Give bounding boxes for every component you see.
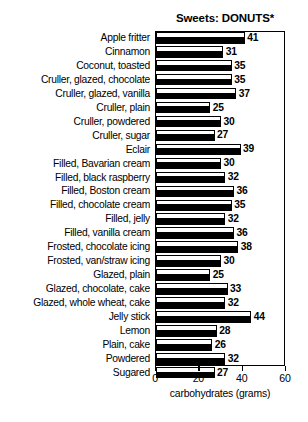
bar-value-label: 32 <box>228 212 239 225</box>
bar <box>156 255 221 267</box>
bar <box>156 200 232 212</box>
bar-segment-dark <box>156 345 212 351</box>
bar-value-label: 33 <box>230 282 241 295</box>
bar-value-label: 31 <box>226 45 237 58</box>
bar-row: Cruller, plain25 <box>0 101 308 115</box>
bar-value-label: 35 <box>234 73 245 86</box>
bar-value-label: 36 <box>237 226 248 239</box>
bar-value-label: 39 <box>243 142 254 155</box>
bar <box>156 158 221 170</box>
x-axis-tick-label: 0 <box>142 372 168 384</box>
bar-segment-dark <box>156 359 225 365</box>
bar-value-label: 27 <box>217 366 228 379</box>
bar-segment-dark <box>156 135 215 141</box>
bar-row: Cruller, sugar27 <box>0 129 308 143</box>
category-label: Apple fritter <box>101 31 153 45</box>
category-label: Jelly stick <box>109 310 153 324</box>
x-axis-title: carbohydrates (grams) <box>155 388 285 399</box>
bar-segment-dark <box>156 191 234 197</box>
bar-segment-dark <box>156 107 210 113</box>
x-axis-tick <box>285 366 286 371</box>
bar-segment-dark <box>156 289 228 295</box>
bar <box>156 46 223 58</box>
x-axis-tick-label: 40 <box>229 372 255 384</box>
bar-segment-dark <box>156 38 245 44</box>
bar <box>156 74 232 86</box>
bar <box>156 130 215 142</box>
bar-segment-dark <box>156 121 221 127</box>
category-label: Filled, black raspberry <box>55 171 153 185</box>
bar-value-label: 30 <box>224 156 235 169</box>
bar-row: Cruller, glazed, vanilla37 <box>0 87 308 101</box>
bar-row: Powdered32 <box>0 352 308 366</box>
bar-value-label: 36 <box>237 184 248 197</box>
bar <box>156 297 225 309</box>
category-label: Plain, cake <box>102 338 153 352</box>
bar-row: Eclair39 <box>0 143 308 157</box>
bar <box>156 116 221 128</box>
bar <box>156 269 210 281</box>
bar-row: Jelly stick44 <box>0 310 308 324</box>
bar <box>156 213 225 225</box>
bar-segment-dark <box>156 219 225 225</box>
bar-segment-dark <box>156 163 221 169</box>
bar-segment-dark <box>156 331 217 337</box>
bar-segment-dark <box>156 317 251 323</box>
bar <box>156 353 225 365</box>
bar-segment-dark <box>156 233 234 239</box>
category-label: Cruller, powdered <box>74 115 153 129</box>
bar-row: Filled, chocolate cream35 <box>0 198 308 212</box>
bar-value-label: 38 <box>241 240 252 253</box>
category-label: Glazed, whole wheat, cake <box>33 296 153 310</box>
bar <box>156 60 232 72</box>
bar-row: Cinnamon31 <box>0 45 308 59</box>
bar-segment-dark <box>156 177 225 183</box>
bar-row: Glazed, plain25 <box>0 268 308 282</box>
bar-value-label: 27 <box>217 128 228 141</box>
category-label: Cruller, sugar <box>92 129 153 143</box>
bar-row: Filled, vanilla cream36 <box>0 226 308 240</box>
bar-value-label: 30 <box>224 115 235 128</box>
bar-segment-dark <box>156 80 232 86</box>
bar-value-label: 35 <box>234 198 245 211</box>
category-label: Lemon <box>120 324 153 338</box>
x-axis: 0204060 <box>155 366 285 367</box>
bar-row: Frosted, chocolate icing38 <box>0 240 308 254</box>
category-label: Eclair <box>126 143 153 157</box>
bar-value-label: 35 <box>234 59 245 72</box>
bar-value-label: 28 <box>219 324 230 337</box>
bar <box>156 32 245 44</box>
bar-segment-dark <box>156 247 238 253</box>
bar <box>156 339 212 351</box>
bar-value-label: 26 <box>215 338 226 351</box>
bar-row: Filled, Boston cream36 <box>0 184 308 198</box>
bar-value-label: 32 <box>228 296 239 309</box>
bar-value-label: 32 <box>228 170 239 183</box>
bar-segment-dark <box>156 94 236 100</box>
bar-value-label: 41 <box>247 31 258 44</box>
bar-segment-dark <box>156 149 241 155</box>
category-label: Frosted, chocolate icing <box>47 240 153 254</box>
x-axis-tick-label: 20 <box>185 372 211 384</box>
category-label: Glazed, chocolate, cake <box>46 282 153 296</box>
category-label: Filled, Bavarian cream <box>53 157 153 171</box>
bar <box>156 283 228 295</box>
x-axis-tick-label: 60 <box>272 372 298 384</box>
bar-value-label: 32 <box>228 352 239 365</box>
category-label: Filled, jelly <box>105 212 153 226</box>
category-label: Glazed, plain <box>93 268 153 282</box>
bar-row: Glazed, chocolate, cake33 <box>0 282 308 296</box>
bar-segment-dark <box>156 303 225 309</box>
bar-segment-dark <box>156 275 210 281</box>
donuts-carbohydrates-bar-chart: Sweets: DONUTS* Apple fritter41Cinnamon3… <box>0 0 308 422</box>
category-label: Filled, Boston cream <box>61 184 153 198</box>
category-label: Cruller, glazed, vanilla <box>55 87 153 101</box>
bar-segment-dark <box>156 66 232 72</box>
bar-row: Frosted, van/straw icing30 <box>0 254 308 268</box>
bar <box>156 102 210 114</box>
bar-rows-container: Apple fritter41Cinnamon31Coconut, toaste… <box>0 31 308 366</box>
bar <box>156 172 225 184</box>
x-axis-tick <box>155 366 156 371</box>
bar-value-label: 44 <box>254 310 265 323</box>
bar-value-label: 30 <box>224 254 235 267</box>
